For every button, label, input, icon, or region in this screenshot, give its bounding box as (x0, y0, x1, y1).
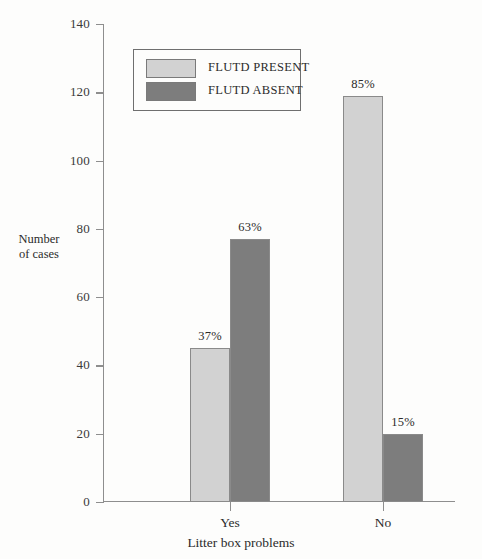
bar-no-flutd-absent (383, 434, 423, 502)
bar-yes-flutd-absent (230, 239, 270, 502)
y-tick-mark (96, 161, 104, 162)
bar-yes-flutd-present (190, 348, 230, 502)
x-tick-mark-yes (230, 502, 231, 511)
y-tick-mark (96, 365, 104, 366)
y-tick-mark (96, 229, 104, 230)
y-tick-label: 40 (40, 355, 90, 374)
legend-swatch-flutd-present (146, 59, 196, 78)
bar-value-label-no-flutd-absent: 15% (368, 415, 438, 430)
x-tick-label-no: No (323, 515, 443, 531)
y-tick-label: 140 (40, 14, 90, 33)
y-tick-label: 20 (40, 424, 90, 443)
y-axis-title-line-2: of cases (6, 247, 72, 262)
y-tick-mark (96, 502, 104, 503)
y-tick-label: 0 (40, 492, 90, 511)
y-tick-label: 120 (40, 82, 90, 101)
y-axis-title: Number of cases (6, 232, 72, 262)
x-axis-title: Litter box problems (0, 535, 482, 551)
y-tick-label: 60 (40, 287, 90, 306)
y-tick-mark (96, 297, 104, 298)
x-tick-mark-no (383, 502, 384, 511)
legend-label-flutd-present: FLUTD PRESENT (208, 60, 309, 75)
chart-legend: FLUTD PRESENT FLUTD ABSENT (133, 49, 301, 111)
bar-value-label-no-flutd-present: 85% (328, 77, 398, 92)
legend-swatch-flutd-absent (146, 82, 196, 101)
y-tick-mark (96, 24, 104, 25)
legend-label-flutd-absent: FLUTD ABSENT (208, 83, 303, 98)
y-tick-mark (96, 92, 104, 93)
bar-no-flutd-present (343, 96, 383, 502)
y-axis-title-line-1: Number (6, 232, 72, 247)
y-tick-mark (96, 434, 104, 435)
x-tick-label-yes: Yes (170, 515, 290, 531)
bar-value-label-yes-flutd-absent: 63% (215, 220, 285, 235)
bar-chart-figure: 020406080100120140 YesNo Number of cases… (0, 0, 482, 559)
y-tick-label: 100 (40, 151, 90, 170)
